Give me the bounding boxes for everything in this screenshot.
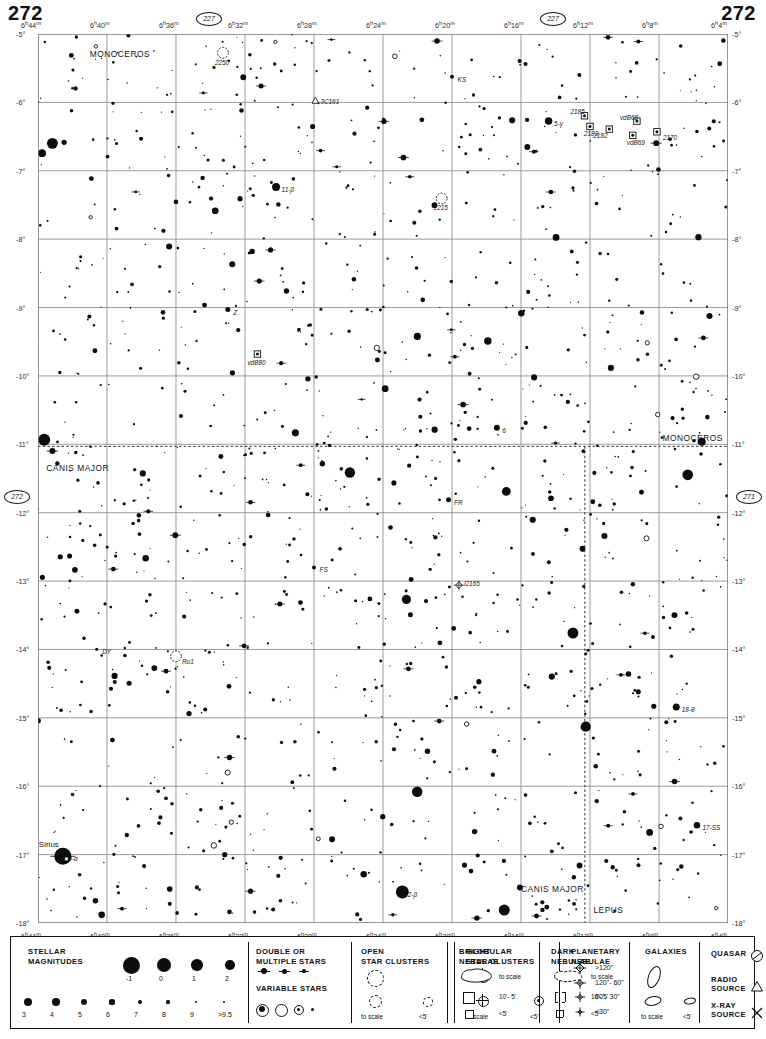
ra-tick-label-top: 6h28m bbox=[297, 20, 317, 30]
legend-dark-nebula-label-1: 10'- 5' bbox=[591, 993, 608, 1000]
legend-divider bbox=[629, 942, 630, 1023]
legend-magnitude-label-9: 9 bbox=[190, 1011, 194, 1018]
constellation-label-1: MONOCEROS bbox=[662, 433, 722, 443]
chart-reference-272[interactable]: 272 bbox=[4, 490, 30, 504]
star-designation-9: FR bbox=[454, 499, 463, 506]
star-designation-7: Z bbox=[233, 309, 237, 316]
legend-magnitude-dot-3 bbox=[24, 998, 33, 1007]
legend-magnitude-dot-4 bbox=[52, 998, 60, 1006]
legend-variable-star-tiny bbox=[311, 1008, 314, 1011]
legend-other-label-1-1: SOURCE bbox=[711, 984, 746, 994]
star-designation-6: 6 bbox=[502, 427, 506, 434]
legend-magnitude-dot->9.5 bbox=[223, 1001, 225, 1003]
legend-magnitude-label-0: 0 bbox=[159, 975, 163, 982]
legend-magnitude-label-4: 4 bbox=[50, 1011, 54, 1018]
chart-reference-227[interactable]: 227 bbox=[196, 12, 222, 26]
star-designation-0: 9-α bbox=[68, 855, 77, 862]
legend-magnitude-label-6: 6 bbox=[106, 1011, 110, 1018]
legend-other-label-2-1: SOURCE bbox=[711, 1010, 746, 1020]
dec-tick-label-right: -7° bbox=[732, 167, 741, 176]
dec-tick-label-right: -8° bbox=[732, 235, 741, 244]
legend-radio-source-icon bbox=[749, 979, 765, 995]
sky-chart-canvas bbox=[38, 34, 728, 923]
legend-dark-nebula-small-b bbox=[556, 1010, 557, 1017]
legend-planetary-nebula-icon-2 bbox=[571, 990, 589, 1004]
dec-tick-label-left: -5° bbox=[16, 30, 25, 39]
legend-divider bbox=[351, 942, 352, 1023]
star-designation-10: FS bbox=[320, 566, 328, 573]
legend-variable-star-filled-core bbox=[259, 1006, 265, 1012]
dec-tick-label-left: -8° bbox=[16, 235, 25, 244]
legend-dark-nebula-medium-e bbox=[565, 992, 566, 1002]
chart-reference-227[interactable]: 227 bbox=[540, 12, 566, 26]
legend-dark-nebula-medium-c bbox=[555, 1002, 558, 1003]
legend-title-stellar-magnitudes-line1: MAGNITUDES bbox=[28, 957, 83, 967]
legend-magnitude-dot-8 bbox=[166, 1000, 169, 1003]
ra-tick-label-top: 6h8m bbox=[642, 20, 658, 30]
dec-tick-label-right: -12° bbox=[732, 509, 745, 518]
legend-other-label-0-0: QUASAR bbox=[711, 949, 746, 959]
legend-dark-nebula-small-e bbox=[563, 1010, 564, 1017]
legend-double-star-bar-1 bbox=[279, 971, 290, 972]
legend-divider bbox=[539, 942, 540, 1023]
legend-title-variable-stars-line0: VARIABLE STARS bbox=[256, 984, 327, 994]
chart-legend: STELLARMAGNITUDES-10123456789>9.5DOUBLE … bbox=[10, 936, 755, 1029]
legend-bright-nebula-medium bbox=[463, 992, 475, 1004]
dso-label-2182: 2182 bbox=[593, 132, 607, 139]
legend-dark-nebula-label-2: <5' bbox=[591, 1010, 600, 1017]
legend-planetary-nebula-icon-3 bbox=[571, 1005, 589, 1019]
dec-tick-label-left: -18° bbox=[16, 919, 29, 928]
star-designation-3: 2-β bbox=[408, 891, 417, 898]
legend-title-open-clusters-line1: STAR CLUSTERS bbox=[361, 957, 429, 967]
dec-tick-label-right: -15° bbox=[732, 714, 745, 723]
legend-galaxy-label-0: to scale bbox=[641, 1013, 663, 1020]
legend-globular-label-1: <5' bbox=[530, 1013, 539, 1020]
coordinate-grid bbox=[38, 34, 728, 923]
dso-label-2185: 2185 bbox=[570, 108, 584, 115]
legend-bright-nebula-small bbox=[465, 1010, 474, 1019]
ra-tick-label-top: 6h44m bbox=[21, 20, 41, 30]
ra-tick-label-top: 6h36m bbox=[159, 20, 179, 30]
dso-label-vdB80: vdB80 bbox=[247, 359, 265, 366]
dec-tick-label-left: -12° bbox=[16, 509, 29, 518]
legend-title-stellar-magnitudes-line0: STELLAR bbox=[28, 947, 66, 957]
chart-reference-271[interactable]: 271 bbox=[736, 490, 762, 504]
legend-divider bbox=[454, 942, 455, 1023]
legend-globular-small-a-v bbox=[482, 994, 483, 1006]
legend-magnitude-label->9.5: >9.5 bbox=[218, 1011, 232, 1018]
sky-chart[interactable] bbox=[38, 34, 728, 923]
ra-tick-label-top: 6h40m bbox=[90, 20, 110, 30]
legend-dark-nebula-small-f bbox=[560, 1017, 563, 1018]
legend-bright-nebula-label-2: <5' bbox=[499, 1010, 508, 1017]
legend-bright-nebula-label-1: 10'- 5' bbox=[499, 993, 516, 1000]
dec-tick-label-right: -14° bbox=[732, 645, 745, 654]
dec-tick-label-left: -9° bbox=[16, 304, 25, 313]
legend-bright-nebula-label-0: to scale bbox=[499, 973, 521, 980]
dec-tick-label-left: -6° bbox=[16, 98, 25, 107]
legend-magnitude-label--1: -1 bbox=[126, 975, 132, 982]
legend-title-double-stars-line0: DOUBLE OR bbox=[256, 947, 305, 957]
legend-magnitude-dot-5 bbox=[81, 999, 87, 1005]
legend-title-galaxies-line0: GALAXIES bbox=[645, 947, 687, 957]
legend-dark-nebula-small-c bbox=[556, 1017, 559, 1018]
dec-tick-label-right: -18° bbox=[732, 919, 745, 928]
ra-tick-label-top: 6h24m bbox=[366, 20, 386, 30]
constellation-label-0: MONOCEROS bbox=[90, 49, 150, 59]
legend-open-cluster-small-a bbox=[369, 995, 382, 1008]
dec-tick-label-right: -17° bbox=[732, 851, 745, 860]
dec-tick-label-right: -16° bbox=[732, 782, 745, 791]
dec-tick-label-right: -5° bbox=[732, 30, 741, 39]
dec-tick-label-right: -13° bbox=[732, 577, 745, 586]
legend-title-double-stars-line1: MULTIPLE STARS bbox=[256, 957, 326, 967]
ra-tick-label-top: 6h32m bbox=[228, 20, 248, 30]
legend-xray-source-icon bbox=[749, 1005, 765, 1021]
constellation-label-4: LEPUS bbox=[593, 905, 623, 915]
dec-tick-label-left: -10° bbox=[16, 372, 29, 381]
legend-title-bright-nebulae-line0: BRIGHT bbox=[459, 947, 491, 957]
legend-magnitude-dot-9 bbox=[195, 1001, 197, 1003]
star-name-sirius: Sirius bbox=[39, 840, 59, 849]
dso-label-I2165: I2165 bbox=[464, 580, 480, 587]
dso-label-3C161: 3C161 bbox=[320, 98, 339, 105]
star-designation-2: 5-γ bbox=[554, 120, 563, 127]
dso-label-2215: 2215 bbox=[434, 204, 448, 211]
